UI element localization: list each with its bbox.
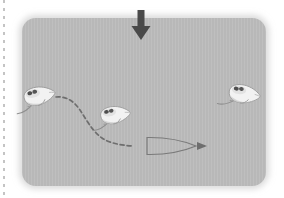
- figure-root: [0, 0, 284, 198]
- mouse-left: [13, 84, 58, 114]
- lens-object: [147, 138, 196, 155]
- figure-overlay: [0, 0, 284, 198]
- trajectory-path: [56, 97, 134, 146]
- stimulus-arrow-icon: [132, 10, 151, 40]
- mouse-right: [217, 82, 261, 110]
- mouse-middle: [90, 104, 132, 130]
